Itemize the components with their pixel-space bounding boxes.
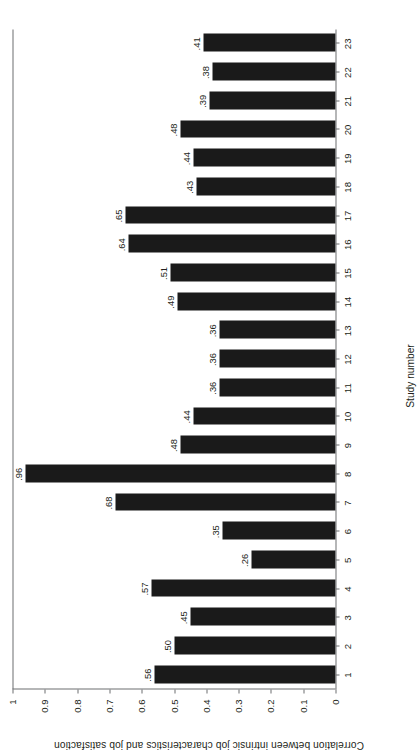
rotated-figure-wrapper: Correlation between intrinsic job charac… — [0, 0, 417, 751]
y-tick-mark — [174, 689, 175, 693]
bar — [190, 607, 335, 625]
x-tick-label: 20 — [341, 124, 352, 135]
x-tick-label: 22 — [341, 67, 352, 78]
x-tick-label: 23 — [341, 38, 352, 49]
x-tick-mark — [335, 588, 339, 589]
x-tick-label: 6 — [341, 529, 352, 534]
x-tick-label: 5 — [341, 557, 352, 562]
bar — [128, 234, 335, 252]
y-tick-mark — [270, 689, 271, 693]
bar-value-label: .48 — [167, 123, 178, 136]
x-tick-label: 18 — [341, 181, 352, 192]
bar — [219, 378, 335, 396]
bar — [193, 407, 335, 425]
y-tick-mark — [77, 689, 78, 693]
bar — [115, 493, 335, 511]
x-tick-label: 17 — [341, 210, 352, 221]
x-tick-mark — [335, 358, 339, 359]
x-tick-mark — [335, 100, 339, 101]
x-tick-label: 15 — [341, 268, 352, 279]
x-tick-mark — [335, 215, 339, 216]
x-tick-mark — [335, 329, 339, 330]
x-tick-mark — [335, 42, 339, 43]
y-tick-label: 0.9 — [39, 699, 50, 729]
x-tick-label: 19 — [341, 153, 352, 164]
bar — [174, 636, 336, 654]
bar-value-label: .36 — [206, 324, 217, 337]
y-tick-label: 0.3 — [233, 699, 244, 729]
x-tick-mark — [335, 444, 339, 445]
y-tick-label: 0.2 — [265, 699, 276, 729]
y-tick-label: 0.5 — [168, 699, 179, 729]
bar-value-label: .36 — [206, 381, 217, 394]
bar-value-label: .96 — [12, 467, 23, 480]
x-tick-label: 21 — [341, 95, 352, 106]
bar-value-label: .35 — [209, 525, 220, 538]
x-tick-label: 12 — [341, 354, 352, 365]
x-tick-label: 16 — [341, 239, 352, 250]
bar — [170, 263, 335, 281]
bar-value-label: .57 — [138, 582, 149, 595]
x-tick-mark — [335, 243, 339, 244]
y-tick-mark — [109, 689, 110, 693]
x-tick-label: 2 — [341, 643, 352, 648]
x-tick-label: 11 — [341, 383, 352, 393]
y-tick-label: 0.8 — [71, 699, 82, 729]
bar — [222, 521, 335, 539]
bar — [180, 435, 335, 453]
x-tick-mark — [335, 559, 339, 560]
y-tick-mark — [141, 689, 142, 693]
x-tick-mark — [335, 473, 339, 474]
x-tick-mark — [335, 272, 339, 273]
x-tick-mark — [335, 157, 339, 158]
bar-value-label: .68 — [102, 496, 113, 509]
bar — [151, 579, 335, 597]
bar-value-label: .45 — [177, 611, 188, 624]
bar — [212, 62, 335, 80]
x-tick-label: 1 — [341, 672, 352, 677]
y-tick-mark — [206, 689, 207, 693]
x-tick-mark — [335, 645, 339, 646]
figure-page: Correlation between intrinsic job charac… — [0, 0, 417, 751]
x-tick-mark — [335, 71, 339, 72]
x-tick-label: 13 — [341, 325, 352, 336]
x-tick-mark — [335, 616, 339, 617]
x-tick-mark — [335, 530, 339, 531]
y-axis-title: Correlation between intrinsic job charac… — [0, 737, 417, 751]
bar — [25, 464, 335, 482]
x-tick-mark — [335, 501, 339, 502]
bar-value-label: .49 — [164, 295, 175, 308]
bar — [219, 349, 335, 367]
bar — [125, 206, 335, 224]
y-tick-mark — [335, 689, 336, 693]
bar — [196, 177, 335, 195]
bar — [177, 292, 335, 310]
x-tick-mark — [335, 415, 339, 416]
x-tick-mark — [335, 301, 339, 302]
y-tick-mark — [238, 689, 239, 693]
bar-value-label: .56 — [141, 668, 152, 681]
y-tick-label: 0.4 — [200, 699, 211, 729]
bar-value-label: .51 — [157, 266, 168, 279]
x-tick-mark — [335, 674, 339, 675]
bar — [219, 320, 335, 338]
bar-value-label: .44 — [180, 410, 191, 423]
bar-value-label: .26 — [238, 553, 249, 566]
bar — [251, 550, 335, 568]
x-axis-title: Study number — [404, 0, 415, 751]
x-tick-label: 9 — [341, 442, 352, 447]
x-tick-label: 10 — [341, 411, 352, 422]
y-tick-label: 0.7 — [103, 699, 114, 729]
y-tick-mark — [44, 689, 45, 693]
y-tick-label: 1 — [7, 699, 18, 729]
x-tick-mark — [335, 128, 339, 129]
x-tick-label: 3 — [341, 615, 352, 620]
bar-value-label: .65 — [112, 209, 123, 222]
bar-value-label: .44 — [180, 152, 191, 165]
bar — [209, 91, 335, 109]
bar — [193, 148, 335, 166]
bar-value-label: .50 — [161, 639, 172, 652]
bar-value-label: .48 — [167, 439, 178, 452]
bar-value-label: .41 — [190, 37, 201, 50]
y-tick-mark — [303, 689, 304, 693]
